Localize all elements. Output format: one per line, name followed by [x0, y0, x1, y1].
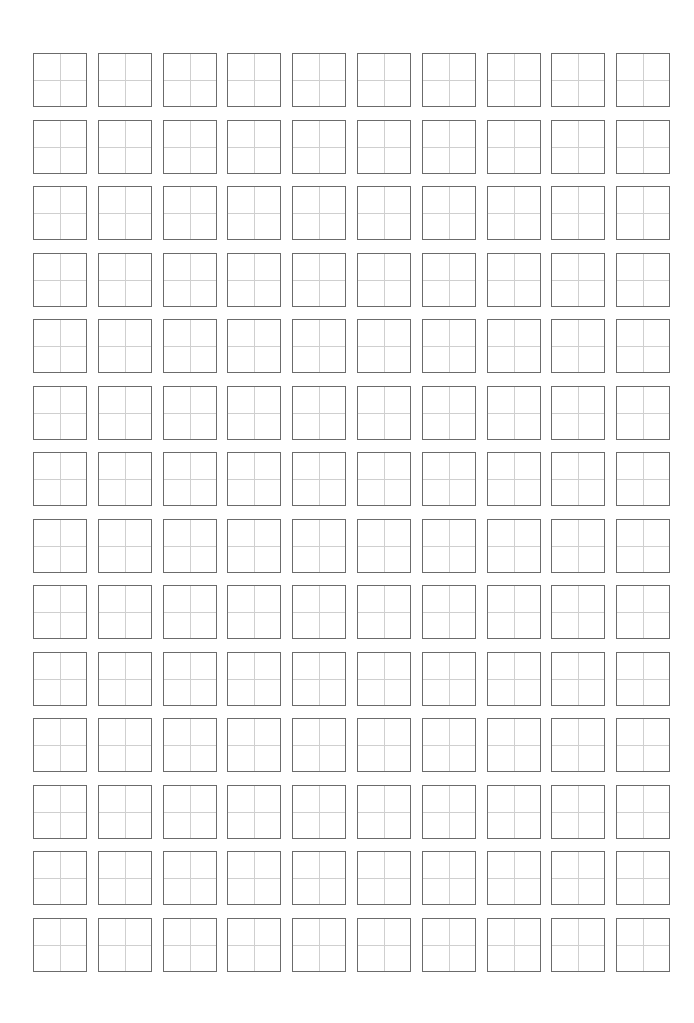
horizontal-guide-line [164, 612, 216, 613]
practice-cell [357, 452, 411, 506]
practice-cell [33, 519, 87, 573]
horizontal-guide-line [34, 280, 86, 281]
horizontal-guide-line [99, 812, 151, 813]
practice-cell [98, 452, 152, 506]
horizontal-guide-line [488, 280, 540, 281]
horizontal-guide-line [552, 546, 604, 547]
practice-cell [163, 53, 217, 107]
horizontal-guide-line [488, 413, 540, 414]
horizontal-guide-line [293, 679, 345, 680]
practice-cell [98, 519, 152, 573]
horizontal-guide-line [99, 413, 151, 414]
horizontal-guide-line [34, 479, 86, 480]
practice-cell [422, 186, 476, 240]
practice-cell [422, 785, 476, 839]
practice-cell [551, 785, 605, 839]
horizontal-guide-line [358, 878, 410, 879]
practice-cell [422, 585, 476, 639]
practice-cell [292, 253, 346, 307]
horizontal-guide-line [34, 745, 86, 746]
practice-cell [292, 386, 346, 440]
horizontal-guide-line [488, 80, 540, 81]
horizontal-guide-line [423, 745, 475, 746]
practice-cell [551, 652, 605, 706]
horizontal-guide-line [34, 812, 86, 813]
practice-cell [227, 186, 281, 240]
practice-cell [616, 319, 670, 373]
horizontal-guide-line [228, 745, 280, 746]
practice-cell [227, 785, 281, 839]
practice-cell [616, 718, 670, 772]
practice-cell [422, 452, 476, 506]
horizontal-guide-line [552, 413, 604, 414]
practice-cell [292, 718, 346, 772]
horizontal-guide-line [617, 679, 669, 680]
practice-cell [551, 452, 605, 506]
practice-cell [98, 918, 152, 972]
practice-cell [422, 652, 476, 706]
horizontal-guide-line [358, 413, 410, 414]
horizontal-guide-line [617, 479, 669, 480]
horizontal-guide-line [358, 346, 410, 347]
horizontal-guide-line [488, 147, 540, 148]
practice-cell [98, 319, 152, 373]
horizontal-guide-line [164, 413, 216, 414]
horizontal-guide-line [99, 479, 151, 480]
practice-cell [227, 53, 281, 107]
practice-cell [357, 386, 411, 440]
practice-cell [551, 386, 605, 440]
practice-cell [98, 186, 152, 240]
horizontal-guide-line [617, 147, 669, 148]
horizontal-guide-line [99, 878, 151, 879]
practice-cell [227, 452, 281, 506]
horizontal-guide-line [228, 147, 280, 148]
horizontal-guide-line [164, 546, 216, 547]
horizontal-guide-line [99, 546, 151, 547]
horizontal-guide-line [34, 612, 86, 613]
practice-cell [551, 519, 605, 573]
practice-cell [616, 186, 670, 240]
practice-cell [292, 918, 346, 972]
practice-cell [616, 652, 670, 706]
practice-cell [616, 53, 670, 107]
horizontal-guide-line [552, 80, 604, 81]
horizontal-guide-line [34, 679, 86, 680]
horizontal-guide-line [358, 479, 410, 480]
practice-cell [292, 785, 346, 839]
horizontal-guide-line [164, 679, 216, 680]
practice-cell [33, 652, 87, 706]
horizontal-guide-line [293, 745, 345, 746]
practice-cell [33, 918, 87, 972]
horizontal-guide-line [552, 280, 604, 281]
practice-cell [33, 253, 87, 307]
horizontal-guide-line [552, 147, 604, 148]
practice-cell [98, 851, 152, 905]
practice-cell [616, 519, 670, 573]
horizontal-guide-line [358, 213, 410, 214]
horizontal-guide-line [423, 945, 475, 946]
practice-cell [422, 319, 476, 373]
practice-cell [616, 120, 670, 174]
practice-cell [487, 120, 541, 174]
horizontal-guide-line [34, 147, 86, 148]
horizontal-guide-line [99, 612, 151, 613]
practice-cell [487, 585, 541, 639]
horizontal-guide-line [99, 147, 151, 148]
horizontal-guide-line [552, 679, 604, 680]
practice-cell [292, 120, 346, 174]
practice-cell [551, 718, 605, 772]
practice-cell [357, 120, 411, 174]
horizontal-guide-line [34, 945, 86, 946]
practice-cell [227, 851, 281, 905]
practice-cell [227, 918, 281, 972]
practice-cell [227, 253, 281, 307]
horizontal-guide-line [552, 812, 604, 813]
horizontal-guide-line [293, 280, 345, 281]
practice-cell [163, 253, 217, 307]
practice-cell [551, 918, 605, 972]
practice-cell [487, 519, 541, 573]
horizontal-guide-line [488, 945, 540, 946]
horizontal-guide-line [164, 745, 216, 746]
practice-cell [357, 319, 411, 373]
horizontal-guide-line [293, 945, 345, 946]
